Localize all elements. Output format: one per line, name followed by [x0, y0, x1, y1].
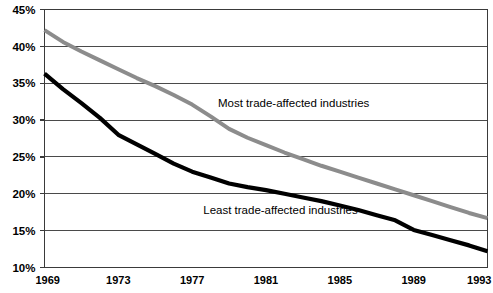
chart-canvas: 10%15%20%25%30%35%40%45% 196919731977198…	[0, 0, 493, 293]
y-axis-tick-labels: 10%15%20%25%30%35%40%45%	[12, 4, 35, 274]
x-tick-label: 1989	[401, 274, 425, 286]
gridlines	[45, 46, 488, 230]
x-tick-label: 1977	[180, 274, 204, 286]
x-tick-label: 1993	[467, 274, 491, 286]
x-tick-label: 1981	[254, 274, 278, 286]
axis-tickmarks	[40, 10, 45, 268]
x-tick-label: 1973	[106, 274, 130, 286]
y-tick-label: 15%	[12, 225, 35, 237]
x-tick-label: 1985	[328, 274, 352, 286]
y-tick-label: 35%	[12, 77, 35, 89]
annotation-least-trade-affected: Least trade-affected industries	[203, 204, 358, 216]
plot-frame	[45, 10, 488, 268]
x-axis-tick-labels: 1969197319771981198519891993	[36, 274, 492, 286]
y-tick-label: 30%	[12, 114, 35, 126]
annotation-most-trade-affected: Most trade-affected industries	[218, 97, 370, 109]
y-tick-label: 10%	[12, 262, 35, 274]
series-lines	[45, 30, 488, 251]
x-tick-label: 1969	[36, 274, 60, 286]
line-chart: 10%15%20%25%30%35%40%45% 196919731977198…	[0, 0, 493, 293]
y-tick-label: 45%	[12, 4, 35, 16]
y-tick-label: 20%	[12, 188, 35, 200]
y-tick-label: 40%	[12, 41, 35, 53]
y-tick-label: 25%	[12, 151, 35, 163]
plot-area-border	[45, 10, 488, 268]
